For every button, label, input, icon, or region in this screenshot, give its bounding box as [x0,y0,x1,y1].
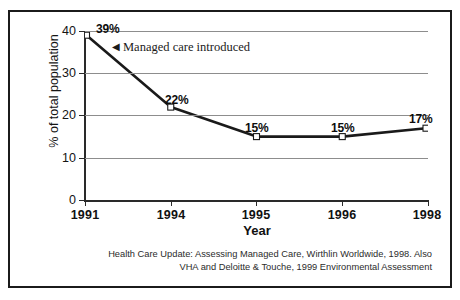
data-label-1998: 17% [409,112,432,126]
source-note: Health Care Update: Assessing Managed Ca… [20,248,440,273]
left-arrow-icon: ◀ [112,41,120,52]
x-tick-label-1998: 1998 [392,208,460,222]
y-axis-label-container: % of total population [22,30,42,202]
x-tick-label-1995: 1995 [221,208,291,222]
x-tick-mark-1995 [256,200,257,206]
x-tick-label-1991: 1991 [50,208,120,222]
annotation-managed-care: ◀Managed care introduced [112,40,250,55]
chart-figure: % of total population 40 30 20 10 0 [0,0,460,300]
x-tick-mark-1996 [342,200,343,206]
gridline-10 [85,158,428,159]
data-label-1994: 22% [165,93,188,107]
data-label-1991: 39% [96,22,119,36]
y-tick-label-40: 40 [50,24,76,38]
y-tick-label-0: 0 [50,193,76,207]
x-tick-mark-1991 [85,200,86,206]
y-tick-label-30: 30 [50,66,76,80]
data-label-1995: 15% [245,121,268,135]
gridline-30 [85,73,428,74]
gridline-20 [85,115,428,116]
x-tick-mark-1994 [171,200,172,206]
x-tick-mark-1998 [428,200,429,206]
x-tick-label-1994: 1994 [136,208,206,222]
x-axis-label: Year [222,223,292,238]
x-tick-label-1996: 1996 [307,208,377,222]
y-tick-label-10: 10 [50,151,76,165]
gridline-40 [85,31,428,32]
annotation-text: Managed care introduced [123,40,250,54]
data-label-1996: 15% [331,121,354,135]
y-tick-label-20: 20 [50,108,76,122]
plot-area [85,31,428,200]
source-note-line-1: Health Care Update: Assessing Managed Ca… [20,248,432,261]
source-note-line-2: VHA and Deloitte & Touche, 1999 Environm… [20,261,432,274]
